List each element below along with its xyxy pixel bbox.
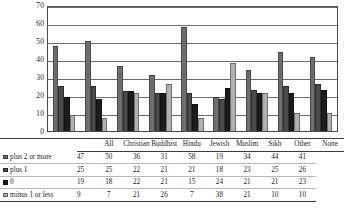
bar-group-muslim (209, 7, 241, 131)
bar-group-none (305, 7, 337, 131)
bar-group-sikh (241, 7, 273, 131)
bar-muslim-minus-1-or-less (230, 63, 236, 131)
cell-value: 41 (289, 151, 317, 164)
value-table: AllChristianBuddhistHinduJewishMuslimSik… (0, 138, 344, 202)
cell-value: 21 (261, 176, 289, 189)
y-tick-0: 0 (40, 128, 44, 136)
y-tick-60: 60 (36, 20, 44, 28)
cell-value: 58 (178, 151, 206, 164)
table-row: plus 2 or more475036315819344441 (0, 151, 344, 164)
bar-hindu-minus-1-or-less (166, 84, 172, 131)
series-label: plus 1 (10, 166, 27, 174)
table-row: 0191822211524212123 (0, 176, 344, 189)
bar-all-minus-1-or-less (70, 115, 76, 131)
column-header-all: All (95, 138, 123, 151)
series-legend-plus-2-or-more: plus 2 or more (0, 151, 77, 164)
cell-value: 19 (77, 176, 95, 189)
y-tick-50: 50 (36, 38, 44, 46)
cell-value: 7 (95, 189, 123, 202)
cell-value: 25 (77, 164, 95, 177)
cell-value: 25 (95, 164, 123, 177)
cell-value: 26 (289, 164, 317, 177)
legend-swatch-icon (3, 193, 8, 198)
bar-other-minus-1-or-less (294, 113, 300, 131)
y-tick-40: 40 (36, 56, 44, 64)
series-legend-minus-1-or-less: minus 1 or less (0, 189, 77, 202)
table-row: minus 1 or less972126738211010 (0, 189, 344, 202)
cell-value: 47 (77, 151, 95, 164)
column-header-none: None (316, 138, 344, 151)
cell-value: 34 (233, 151, 261, 164)
cell-value: 36 (123, 151, 151, 164)
cell-value: 23 (289, 176, 317, 189)
bar-group-hindu (144, 7, 176, 131)
y-tick-70: 70 (36, 2, 44, 10)
cell-value: 44 (261, 151, 289, 164)
cell-value: 21 (233, 176, 261, 189)
row-label-header (0, 138, 77, 151)
column-header-hindu: Hindu (178, 138, 206, 151)
cell-value: 7 (178, 189, 206, 202)
bar-group-christian (80, 7, 112, 131)
cell-value: 25 (261, 164, 289, 177)
series-label: plus 2 or more (10, 153, 52, 161)
bar-none-minus-1-or-less (327, 113, 333, 131)
y-tick-30: 30 (36, 74, 44, 82)
cell-value: 21 (150, 176, 178, 189)
legend-swatch-icon (3, 168, 8, 173)
cell-value: 18 (206, 164, 234, 177)
bar-group-buddhist (112, 7, 144, 131)
cell-value: 23 (233, 164, 261, 177)
column-header-sikh: Sikh (261, 138, 289, 151)
bar-sikh-minus-1-or-less (262, 93, 268, 131)
series-legend-plus-1: plus 1 (0, 164, 77, 177)
bar-chart: 706050403020100 (0, 0, 344, 140)
bar-groups (48, 7, 337, 131)
bar-jewish-minus-1-or-less (198, 118, 204, 131)
cell-value: 38 (206, 189, 234, 202)
cell-value: 10 (261, 189, 289, 202)
column-header-buddhist: Buddhist (150, 138, 178, 151)
series-legend-0: 0 (0, 176, 77, 189)
table-header-row: AllChristianBuddhistHinduJewishMuslimSik… (0, 138, 344, 151)
cell-value: 22 (123, 176, 151, 189)
bar-buddhist-minus-1-or-less (134, 93, 140, 131)
legend-swatch-icon (3, 155, 8, 160)
cell-value: 31 (150, 151, 178, 164)
cell-value: 9 (77, 189, 95, 202)
chart-figure: 706050403020100 AllChristianBuddhistHind… (0, 0, 344, 210)
y-tick-10: 10 (36, 110, 44, 118)
data-table: AllChristianBuddhistHinduJewishMuslimSik… (0, 138, 344, 210)
cell-value: 24 (206, 176, 234, 189)
column-header-jewish: Jewish (206, 138, 234, 151)
column-header-other: Other (289, 138, 317, 151)
cell-value: 21 (150, 164, 178, 177)
bar-group-other (273, 7, 305, 131)
cell-value: 15 (178, 176, 206, 189)
cell-value: 21 (233, 189, 261, 202)
cell-value: 50 (95, 151, 123, 164)
bar-group-all (48, 7, 80, 131)
legend-swatch-icon (3, 180, 8, 185)
cell-value: 21 (178, 164, 206, 177)
series-label: minus 1 or less (10, 191, 53, 199)
cell-value: 18 (95, 176, 123, 189)
cell-value: 10 (289, 189, 317, 202)
series-label: 0 (10, 178, 14, 186)
bar-christian-minus-1-or-less (102, 118, 108, 131)
column-header-christian: Christian (123, 138, 151, 151)
table-row: plus 1252522212118232526 (0, 164, 344, 177)
cell-value: 21 (123, 189, 151, 202)
cell-value: 22 (123, 164, 151, 177)
y-tick-20: 20 (36, 92, 44, 100)
cell-value: 26 (150, 189, 178, 202)
header-spacer (77, 138, 95, 151)
bar-group-jewish (176, 7, 208, 131)
table-top-rule (0, 138, 344, 139)
plot-area (47, 6, 338, 132)
y-axis-tick-labels: 706050403020100 (22, 0, 44, 132)
column-header-muslim: Muslim (233, 138, 261, 151)
cell-value: 19 (206, 151, 234, 164)
